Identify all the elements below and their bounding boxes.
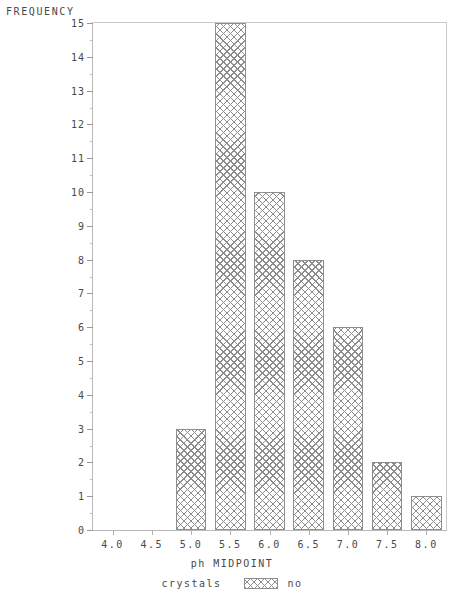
x-tick — [152, 530, 153, 535]
y-tick-label: 0 — [78, 525, 85, 536]
y-tick-label: 8 — [78, 254, 85, 265]
y-tick-label: 9 — [78, 220, 85, 231]
y-tick — [87, 429, 93, 430]
legend-entry-crystals: crystals — [161, 578, 221, 589]
bar — [372, 462, 403, 530]
y-tick — [87, 395, 93, 396]
y-tick — [87, 260, 93, 261]
x-tick — [348, 530, 349, 535]
y-tick-minor — [90, 209, 93, 210]
y-tick — [87, 462, 93, 463]
x-tick — [309, 530, 310, 535]
y-tick — [87, 23, 93, 24]
legend-label-no: no — [288, 578, 303, 589]
x-tick — [113, 530, 114, 535]
x-tick-label: 4.5 — [141, 539, 164, 550]
y-tick-minor — [90, 108, 93, 109]
chart-legend: crystals no — [0, 578, 464, 589]
y-tick-minor — [90, 344, 93, 345]
y-tick-label: 15 — [71, 18, 85, 29]
x-tick-label: 5.0 — [180, 539, 203, 550]
y-tick-minor — [90, 446, 93, 447]
y-tick-minor — [90, 175, 93, 176]
x-tick-label: 7.5 — [376, 539, 399, 550]
y-tick-label: 3 — [78, 423, 85, 434]
x-tick-label: 5.5 — [219, 539, 242, 550]
x-tick — [387, 530, 388, 535]
bar — [293, 260, 324, 530]
legend-entry-no: no — [244, 578, 303, 589]
y-tick-label: 13 — [71, 85, 85, 96]
y-tick-label: 4 — [78, 389, 85, 400]
x-tick-label: 6.0 — [258, 539, 281, 550]
y-tick-label: 2 — [78, 457, 85, 468]
bar — [333, 327, 364, 530]
x-tick-label: 7.0 — [337, 539, 360, 550]
y-tick — [87, 496, 93, 497]
y-tick-minor — [90, 513, 93, 514]
y-tick — [87, 91, 93, 92]
y-tick-minor — [90, 277, 93, 278]
y-tick-minor — [90, 378, 93, 379]
y-tick-minor — [90, 141, 93, 142]
y-tick — [87, 361, 93, 362]
x-tick — [230, 530, 231, 535]
y-tick-label: 6 — [78, 322, 85, 333]
y-tick — [87, 158, 93, 159]
y-tick — [87, 124, 93, 125]
legend-swatch-icon — [244, 578, 278, 589]
y-tick — [87, 293, 93, 294]
y-tick-minor — [90, 479, 93, 480]
y-tick-label: 14 — [71, 51, 85, 62]
bar — [254, 192, 285, 530]
plot-area: 0123456789101112131415 4.04.55.05.56.06.… — [92, 22, 447, 531]
y-axis-title: FREQUENCY — [6, 6, 75, 17]
y-tick — [87, 226, 93, 227]
bar — [411, 496, 442, 530]
bar — [176, 429, 207, 530]
y-tick-label: 12 — [71, 119, 85, 130]
y-tick-minor — [90, 310, 93, 311]
y-tick-minor — [90, 243, 93, 244]
y-tick-minor — [90, 74, 93, 75]
y-tick-minor — [90, 40, 93, 41]
y-tick-label: 11 — [71, 153, 85, 164]
y-tick-label: 7 — [78, 288, 85, 299]
y-tick — [87, 530, 93, 531]
y-tick — [87, 192, 93, 193]
x-axis-title: ph MIDPOINT — [0, 558, 464, 569]
x-tick — [270, 530, 271, 535]
x-tick — [191, 530, 192, 535]
y-tick — [87, 57, 93, 58]
y-tick — [87, 327, 93, 328]
x-tick-label: 8.0 — [415, 539, 438, 550]
x-tick-label: 4.0 — [101, 539, 124, 550]
x-tick — [426, 530, 427, 535]
y-tick-minor — [90, 412, 93, 413]
x-tick-label: 6.5 — [297, 539, 320, 550]
y-tick-label: 5 — [78, 356, 85, 367]
y-tick-label: 10 — [71, 187, 85, 198]
y-tick-label: 1 — [78, 491, 85, 502]
legend-label-crystals: crystals — [161, 578, 221, 589]
bar — [215, 23, 246, 530]
